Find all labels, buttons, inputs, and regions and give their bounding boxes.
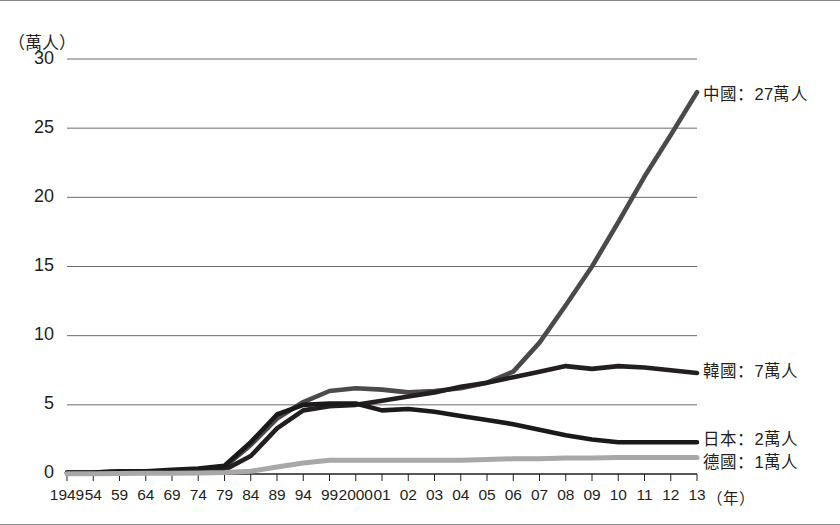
x-tick-label-79: 79: [216, 486, 233, 504]
y-tick-label-25: 25: [8, 117, 54, 138]
x-tick-label-12: 12: [662, 486, 679, 504]
x-tick-label-59: 59: [111, 486, 128, 504]
y-tick-label-20: 20: [8, 186, 54, 207]
x-tick-label-74: 74: [190, 486, 207, 504]
x-tick-label-06: 06: [505, 486, 522, 504]
x-tick-label-84: 84: [242, 486, 259, 504]
series-line-germany: [67, 457, 697, 473]
x-tick-label-08: 08: [557, 486, 574, 504]
x-tick-label-09: 09: [583, 486, 600, 504]
series-label-germany: 德國：1萬人: [703, 449, 798, 473]
y-tick-label-5: 5: [8, 393, 54, 414]
x-tick-label-03: 03: [426, 486, 443, 504]
x-tick-label-1949: 1949: [50, 486, 84, 504]
series-label-china: 中國：27萬人: [703, 81, 808, 105]
x-tick-label-10: 10: [610, 486, 627, 504]
x-axis-unit-label: （年）: [707, 486, 755, 508]
x-tick-label-2000: 2000: [339, 486, 373, 504]
x-tick-label-64: 64: [137, 486, 154, 504]
y-tick-label-30: 30: [8, 48, 54, 69]
x-tick-label-07: 07: [531, 486, 548, 504]
y-tick-label-10: 10: [8, 324, 54, 345]
y-tick-label-15: 15: [8, 255, 54, 276]
x-tick-label-54: 54: [85, 486, 102, 504]
series-label-korea: 韓國：7萬人: [703, 358, 798, 382]
x-tick-label-94: 94: [295, 486, 312, 504]
series-label-japan: 日本：2萬人: [703, 426, 798, 450]
x-tick-label-04: 04: [452, 486, 469, 504]
x-tick-label-05: 05: [478, 486, 495, 504]
x-tick-label-69: 69: [163, 486, 180, 504]
x-tick-label-01: 01: [373, 486, 390, 504]
x-tick-label-11: 11: [636, 486, 652, 504]
series-line-china: [67, 92, 697, 472]
x-tick-label-89: 89: [268, 486, 285, 504]
x-tick-label-02: 02: [400, 486, 417, 504]
y-tick-label-0: 0: [8, 462, 54, 483]
chart-figure: （萬人） 30 25 20 15 10 5 0 中國：27萬人 韓國：7萬人 日…: [0, 0, 840, 525]
x-tick-label-13: 13: [688, 486, 705, 504]
x-tick-label-99: 99: [321, 486, 338, 504]
